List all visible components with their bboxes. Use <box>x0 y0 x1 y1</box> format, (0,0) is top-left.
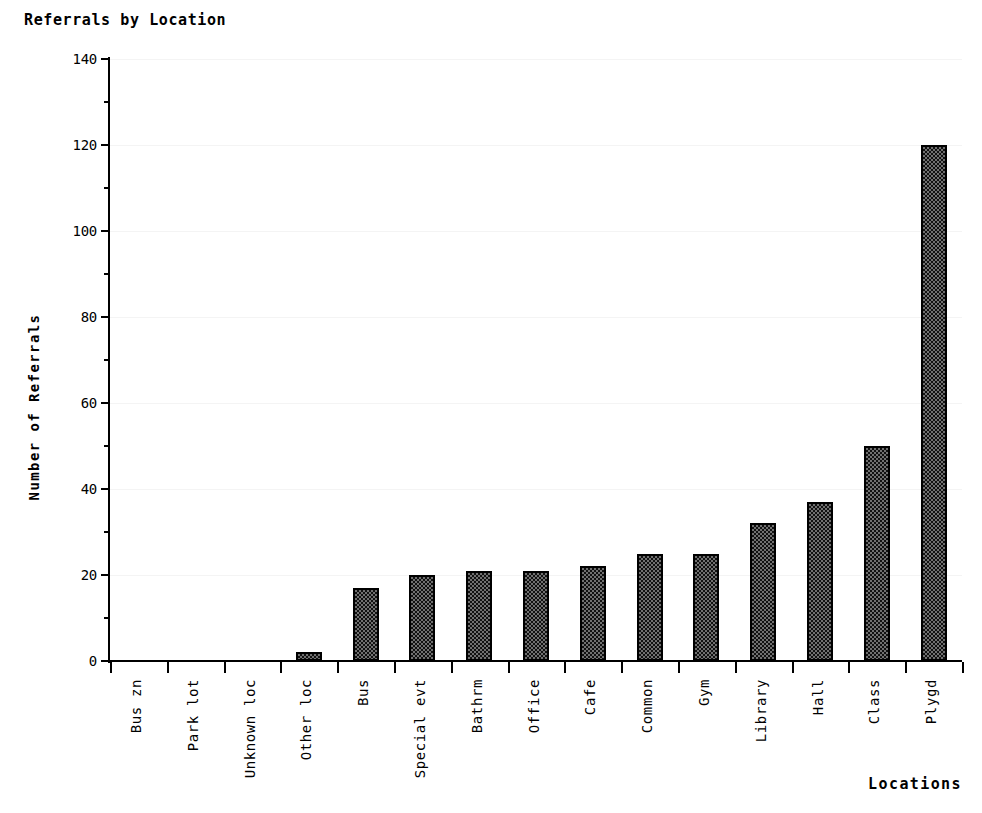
x-axis-tick <box>735 662 737 673</box>
bar-slot <box>621 59 678 661</box>
y-axis-tick-label: 0 <box>89 653 97 669</box>
x-axis-category-label: Cafe <box>582 679 598 715</box>
bar-slot <box>848 59 905 661</box>
x-axis-tick <box>337 662 339 673</box>
x-axis-tick <box>848 662 850 673</box>
bar-slot <box>110 59 167 661</box>
x-axis-tick <box>167 662 169 673</box>
x-axis-category-label: Hall <box>810 679 826 715</box>
x-axis-category-label: Bus zn <box>128 679 144 733</box>
x-axis-tick <box>224 662 226 673</box>
y-axis-tick-label: 40 <box>81 481 97 497</box>
bar[interactable] <box>523 571 549 661</box>
x-axis-category-label: Unknown loc <box>242 679 258 778</box>
x-axis-category-label: Office <box>526 679 542 733</box>
bar-slot <box>280 59 337 661</box>
bar-chart: Referrals by Location Number of Referral… <box>0 0 982 813</box>
plot-area: 020406080100120140 Bus znPark lotUnknown… <box>110 59 962 661</box>
bar[interactable] <box>466 571 492 661</box>
bar[interactable] <box>637 554 663 662</box>
x-axis-category-label: Park lot <box>185 679 201 751</box>
y-axis-tick <box>101 144 110 146</box>
y-axis-tick-label: 20 <box>81 567 97 583</box>
x-axis-category-label: Common <box>639 679 655 733</box>
x-axis-category-label: Special evt <box>412 679 428 778</box>
y-axis-tick-label: 120 <box>73 137 97 153</box>
y-axis-tick <box>101 58 110 60</box>
chart-title: Referrals by Location <box>24 11 226 29</box>
bar[interactable] <box>296 652 322 661</box>
x-axis-category-label: Class <box>866 679 882 724</box>
x-axis-category-label: Library <box>753 679 769 742</box>
x-axis-category-label: Bathrm <box>469 679 485 733</box>
bar-slot <box>224 59 281 661</box>
bar[interactable] <box>864 446 890 661</box>
y-axis-tick <box>101 230 110 232</box>
bar[interactable] <box>921 145 947 661</box>
x-axis-tick <box>792 662 794 673</box>
x-axis-tick <box>905 662 907 673</box>
bar[interactable] <box>580 566 606 661</box>
y-axis-tick <box>101 488 110 490</box>
x-axis-tick <box>678 662 680 673</box>
x-axis-category-label: Gym <box>696 679 712 706</box>
bar-slot <box>508 59 565 661</box>
y-axis-title: Number of Referrals <box>26 313 42 500</box>
x-axis-tick <box>451 662 453 673</box>
y-axis-tick-label: 80 <box>81 309 97 325</box>
x-axis-tick <box>394 662 396 673</box>
bar-slot <box>394 59 451 661</box>
x-axis-tick <box>564 662 566 673</box>
bar-slot <box>905 59 962 661</box>
bar[interactable] <box>353 588 379 661</box>
y-axis-tick <box>101 316 110 318</box>
y-axis-tick-label: 100 <box>73 223 97 239</box>
bar[interactable] <box>750 523 776 661</box>
bar-slot <box>337 59 394 661</box>
x-axis-category-label: Plygd <box>923 679 939 724</box>
bar-slot <box>735 59 792 661</box>
bar[interactable] <box>409 575 435 661</box>
y-axis-tick-label: 60 <box>81 395 97 411</box>
bar-slot <box>451 59 508 661</box>
bar[interactable] <box>693 554 719 662</box>
bar-slot <box>678 59 735 661</box>
x-axis-tick <box>280 662 282 673</box>
x-axis-category-label: Other loc <box>298 679 314 760</box>
x-axis-tick <box>508 662 510 673</box>
x-axis-tick <box>110 662 112 673</box>
y-axis-tick <box>101 574 110 576</box>
bar-slot <box>167 59 224 661</box>
y-axis-tick-label: 140 <box>73 51 97 67</box>
y-axis-tick <box>101 660 110 662</box>
x-axis-tick <box>621 662 623 673</box>
bar-slot <box>792 59 849 661</box>
bar[interactable] <box>807 502 833 661</box>
bar-slot <box>564 59 621 661</box>
x-axis-category-label: Bus <box>355 679 371 706</box>
x-axis-tick <box>962 662 964 673</box>
x-axis-title: Locations <box>868 775 962 793</box>
y-axis-tick <box>101 402 110 404</box>
